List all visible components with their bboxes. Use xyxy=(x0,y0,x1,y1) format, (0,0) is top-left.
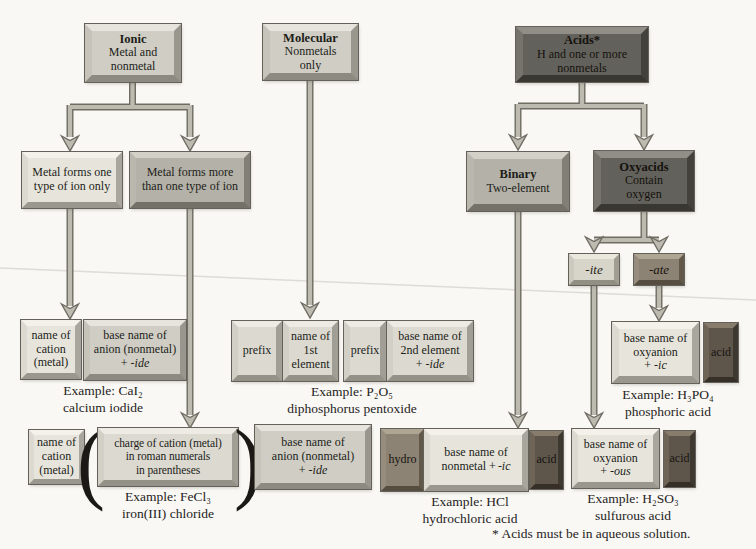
example-fecl3: Example: FeCl₃ iron(III) chloride xyxy=(88,488,248,523)
example-h3po4: Example: H₃PO₄ phosphoric acid xyxy=(588,386,748,421)
arrowhead-icon xyxy=(636,135,653,150)
node-cation-name-1: name of cation (metal) xyxy=(21,320,81,379)
example-formula: Example: H₂SO₃ xyxy=(553,490,713,507)
node-oxyanion-ic: base name of oxyanion + -ic xyxy=(612,322,699,383)
node-body: acid xyxy=(537,453,557,467)
node-body: acid xyxy=(711,346,731,360)
node-roman-numeral-charge: charge of cation (metal) in roman numera… xyxy=(98,428,238,486)
node-body: base name of anion (nonmetal) xyxy=(272,436,354,464)
node-title: Oxyacids xyxy=(619,160,668,175)
node-first-element: name of 1st element xyxy=(283,321,338,381)
node-acids: Acids* H and one or more nonmetals xyxy=(516,27,648,82)
node-suffix: + -ide xyxy=(121,357,149,371)
node-second-element: base name of 2nd element + -ide xyxy=(387,321,473,381)
node-acid-tab-hcl: acid xyxy=(530,431,563,489)
node-suffix: + -ous xyxy=(600,465,630,479)
node-body: base name of 2nd element xyxy=(398,330,461,358)
node-ite-suffix: -ite xyxy=(569,254,619,285)
node-body: base name of oxyanion xyxy=(624,332,687,360)
node-body: Metal forms more than one type of ion xyxy=(142,166,238,194)
node-oxyacids: Oxyacids Contain oxygen xyxy=(594,151,694,211)
node-cation-name-2: name of cation (metal) xyxy=(29,430,84,484)
node-anion-name-1: base name of anion (nonmetal) + -ide xyxy=(84,320,186,380)
arrowhead-icon xyxy=(510,135,527,150)
example-h2so3: Example: H₂SO₃ sulfurous acid xyxy=(553,490,713,525)
example-formula: Example: HCl xyxy=(390,493,550,510)
node-body: -ite xyxy=(585,262,602,277)
arrowhead-icon xyxy=(62,304,79,319)
example-name: phosphoric acid xyxy=(588,403,748,420)
node-body: charge of cation (metal) in roman numera… xyxy=(114,437,222,477)
node-title: Molecular xyxy=(283,31,338,46)
node-body: hydro xyxy=(389,453,417,467)
node-metal-more-ions: Metal forms more than one type of ion xyxy=(130,152,250,208)
node-suffix: + -ide xyxy=(299,464,327,478)
node-body: Contain oxygen xyxy=(625,174,663,202)
node-title: Ionic xyxy=(119,32,146,47)
node-ionic: Ionic Metal and nonmetal xyxy=(85,24,181,82)
node-molecular: Molecular Nonmetals only xyxy=(263,24,358,80)
node-body: base name of anion (nonmetal) xyxy=(94,329,176,357)
node-body: Metal and nonmetal xyxy=(109,46,157,74)
node-acid-tab-ic: acid xyxy=(704,323,738,382)
node-body: prefix xyxy=(351,344,380,358)
example-formula: Example: FeCl₃ xyxy=(88,488,248,505)
arrowhead-icon xyxy=(510,413,527,428)
node-body: Nonmetals only xyxy=(285,45,337,73)
node-prefix-2: prefix xyxy=(344,321,386,381)
node-body: acid xyxy=(670,452,690,466)
footnote-text: * Acids must be in aqueous solution. xyxy=(492,526,752,542)
node-anion-name-2: base name of anion (nonmetal) + -ide xyxy=(255,425,371,489)
arrowhead-icon xyxy=(182,136,199,151)
node-ate-suffix: -ate xyxy=(634,254,684,285)
node-hydro-prefix: hydro xyxy=(381,429,424,491)
node-body: base name of nonmetal +-ic xyxy=(441,446,510,474)
node-body: prefix xyxy=(243,344,272,358)
node-body: H and one or more nonmetals xyxy=(537,48,627,76)
example-hcl: Example: HCl hydrochloric acid xyxy=(390,493,550,528)
node-body: name of cation (metal) xyxy=(37,436,76,478)
example-formula: Example: P₂O₅ xyxy=(262,383,442,400)
node-title: Binary xyxy=(500,167,537,182)
nomenclature-flowchart: Ionic Metal and nonmetal Molecular Nonme… xyxy=(0,0,756,549)
node-suffix: + -ide xyxy=(416,358,444,372)
node-oxyanion-ous: base name of oxyanion + -ous xyxy=(572,429,659,488)
arrowhead-icon xyxy=(182,413,199,428)
node-body: name of 1st element xyxy=(291,330,330,372)
arrowhead-icon xyxy=(651,306,668,321)
arrowhead-icon xyxy=(62,136,79,151)
node-prefix-1: prefix xyxy=(232,321,282,381)
node-body: -ate xyxy=(649,262,669,277)
arrowhead-icon xyxy=(302,303,319,318)
node-suffix: + -ic xyxy=(644,359,666,373)
node-metal-one-ion: Metal forms one type of ion only xyxy=(22,152,122,208)
node-body: Metal forms one type of ion only xyxy=(32,166,111,194)
example-formula: Example: CaI₂ xyxy=(23,382,183,399)
example-name: iron(III) chloride xyxy=(88,505,248,522)
node-acid-tab-ous: acid xyxy=(664,431,695,487)
node-nonmetal-ic: base name of nonmetal +-ic xyxy=(424,429,528,491)
node-body: name of cation (metal) xyxy=(32,329,71,371)
example-formula: Example: H₃PO₄ xyxy=(588,386,748,403)
example-name: hydrochloric acid xyxy=(390,510,550,527)
node-title: Acids* xyxy=(564,33,600,48)
example-p2o5: Example: P₂O₅ diphosphorus pentoxide xyxy=(262,383,442,418)
node-body: base name of oxyanion xyxy=(584,438,647,466)
example-name: sulfurous acid xyxy=(553,507,713,524)
example-name: calcium iodide xyxy=(23,399,183,416)
example-cai2: Example: CaI₂ calcium iodide xyxy=(23,382,183,417)
node-binary: Binary Two-element xyxy=(467,152,569,211)
example-name: diphosphorus pentoxide xyxy=(262,400,442,417)
node-body: Two-element xyxy=(486,182,549,196)
